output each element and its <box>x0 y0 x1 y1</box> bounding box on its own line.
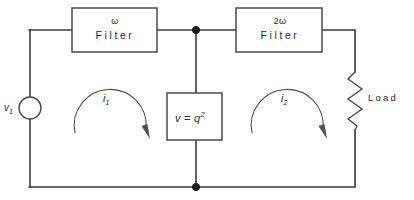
voltage-source-subscript: 1 <box>9 108 13 115</box>
mesh-current-arrowhead-1 <box>142 124 151 139</box>
filter-one-label-group: ω Filter <box>72 17 158 41</box>
bottom-center-node <box>192 183 199 190</box>
mesh-current-subscript-2: 2 <box>283 99 287 106</box>
filter-two-label-group: 2ω Filter <box>237 17 323 41</box>
filter-one-frequency: ω <box>72 17 158 26</box>
equation-exponent: 2 <box>201 110 206 119</box>
voltage-source-label: v1 <box>4 103 13 115</box>
filter-one-name: Filter <box>72 30 158 41</box>
top-center-node <box>192 26 199 33</box>
load-resistor-symbol <box>348 72 362 130</box>
equation-operator: = <box>181 112 194 124</box>
load-label: Load <box>368 93 398 103</box>
mesh-current-label-2: i2 <box>281 93 287 106</box>
circuit-diagram: ω Filter 2ω Filter v=q2 v1 i1 i2 Load <box>0 0 414 200</box>
mesh-current-arrowhead-2 <box>319 124 328 139</box>
equation-rhs: q <box>194 112 201 124</box>
circuit-schematic-svg <box>0 0 414 200</box>
mesh-current-label-1: i1 <box>103 93 109 106</box>
filter-two-name: Filter <box>237 30 323 41</box>
voltage-source-symbol <box>19 97 41 119</box>
mesh-current-subscript-1: 1 <box>105 99 109 106</box>
nonlinear-element-equation: v=q2 <box>175 111 205 124</box>
wire-top-right <box>322 30 355 72</box>
filter-two-frequency: 2ω <box>237 17 323 26</box>
mesh-current-arc-1 <box>74 89 146 133</box>
